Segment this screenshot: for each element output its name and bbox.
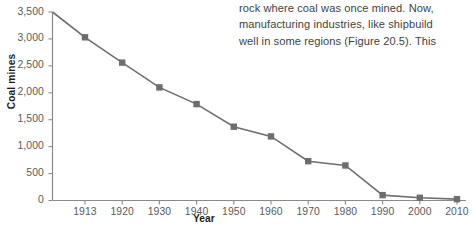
data-point-marker [119,59,125,65]
x-tick-label: 1950 [214,206,254,217]
passage-line-1: rock where coal was once mined. Now, [239,0,471,16]
y-tick-label: 1,000 [0,140,44,151]
x-tick-label: 1970 [288,206,328,217]
y-tick-label: 3,500 [0,6,44,17]
passage-line-3: well in some regions (Figure 20.5). This [239,33,471,49]
x-tick-label: 1930 [139,206,179,217]
x-tick-label: 1990 [363,206,403,217]
data-point-marker [82,34,88,40]
x-tick-label: 2010 [437,206,473,217]
y-tick-label: 2,500 [0,59,44,70]
data-point-marker [417,195,423,201]
y-tick-label: 1,500 [0,113,44,124]
y-tick-label: 3,000 [0,32,44,43]
x-tick-label: 1940 [177,206,217,217]
data-point-marker [193,101,199,107]
x-tick-label: 1920 [102,206,142,217]
data-point-marker [454,196,460,202]
x-tick-marks [85,201,457,205]
data-point-marker [156,84,162,90]
data-point-marker [342,162,348,168]
x-tick-label: 1913 [65,206,105,217]
y-tick-label: 0 [0,194,44,205]
x-tick-label: 1980 [325,206,365,217]
y-axis-title: Coal mines [6,46,17,118]
data-series-markers [82,34,460,202]
data-point-marker [379,192,385,198]
passage-line-2: manufacturing industries, like shipbuild [239,16,471,32]
x-tick-label: 1960 [251,206,291,217]
data-point-marker [268,133,274,139]
x-tick-label: 2000 [400,206,440,217]
passage-text: rock where coal was once mined. Now, man… [239,0,471,49]
y-tick-label: 500 [0,167,44,178]
data-point-marker [231,124,237,130]
data-point-marker [305,158,311,164]
y-tick-label: 2,000 [0,86,44,97]
